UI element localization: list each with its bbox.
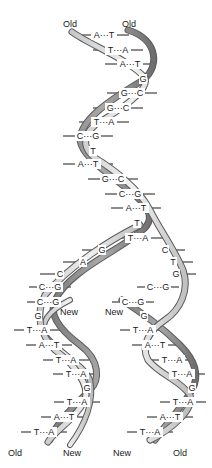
daughter-left-base-pair: G [34, 311, 41, 321]
daughter-right-base-pair: T···A [140, 427, 161, 437]
parent-pairs-base-pair: A···T [126, 203, 147, 213]
label-new-fork-left: New [60, 307, 79, 317]
label-old-bottom-left: Old [8, 448, 22, 458]
label-old-top-right: Old [122, 19, 136, 29]
parent-pairs-base-pair: C···G [119, 189, 142, 199]
fork-left-base-pair: C···G [39, 282, 62, 292]
parent-pairs-base-pair: T···A [108, 45, 129, 55]
daughter-right-base-pair: T···A [173, 397, 194, 407]
parent-pairs-base-pair: G···C [107, 103, 130, 113]
daughter-right-base-pair: A···T [145, 340, 166, 350]
parent-pairs-base-pair: T [134, 218, 140, 228]
fork-right-base-pair: T [170, 257, 176, 267]
dna-replication-diagram: A···TT···AA···TGG···CG···CT···AC···GTA··… [0, 0, 212, 468]
base-pairs: A···TT···AA···TGG···CG···CT···AC···GTA··… [24, 30, 196, 437]
label-new-bottom-right: New [113, 448, 132, 458]
daughter-right-base-pair: A···T [160, 412, 181, 422]
daughter-left-base-pair: A···T [54, 412, 75, 422]
parent-pairs-base-pair: G [139, 74, 146, 84]
label-old-bottom-right: Old [173, 448, 187, 458]
daughter-left-base-pair: A···T [39, 340, 60, 350]
daughter-right-base-pair: T···A [172, 369, 193, 379]
fork-right-base-pair: C [162, 245, 169, 255]
daughter-right-base-pair: T···A [133, 325, 154, 335]
daughter-right-base-pair: G [188, 383, 195, 393]
parent-pairs-base-pair: A···T [94, 30, 115, 40]
daughter-left-base-pair: T···A [34, 427, 55, 437]
fork-right-base-pair: C···G [147, 282, 170, 292]
daughter-left-base-pair: T···A [66, 369, 87, 379]
parent-pairs-base-pair: A···T [120, 59, 141, 69]
daughter-right-base-pair: G [140, 311, 147, 321]
parent-pairs-base-pair: A···T [78, 159, 99, 169]
parent-pairs-base-pair: G···C [102, 174, 125, 184]
label-new-fork-right: New [105, 307, 124, 317]
fork-right-base-pair: C···G [122, 297, 145, 307]
diagram-canvas: A···TT···AA···TGG···CG···CT···AC···GTA··… [0, 0, 212, 468]
fork-left-base-pair: C···G [37, 297, 60, 307]
daughter-left-base-pair: G [83, 383, 90, 393]
parent-pairs-base-pair: C···G [77, 131, 100, 141]
parent-pairs-base-pair: T···A [94, 117, 115, 127]
fork-left-base-pair: C [57, 269, 64, 279]
daughter-left-base-pair: T···A [27, 325, 48, 335]
fork-right-base-pair: G [172, 269, 179, 279]
parent-pairs-base-pair: G···C [121, 88, 144, 98]
parent-pairs-base-pair: T [90, 146, 96, 156]
parent-pairs-base-pair: T···A [128, 233, 149, 243]
daughter-right-base-pair: T···A [162, 355, 183, 365]
daughter-left-base-pair: T···A [56, 355, 77, 365]
label-new-bottom-left: New [63, 448, 82, 458]
fork-left-base-pair: G [98, 245, 105, 255]
label-old-top-left: Old [63, 19, 77, 29]
fork-left-base-pair: A [80, 257, 86, 267]
daughter-left-base-pair: T···A [67, 397, 88, 407]
